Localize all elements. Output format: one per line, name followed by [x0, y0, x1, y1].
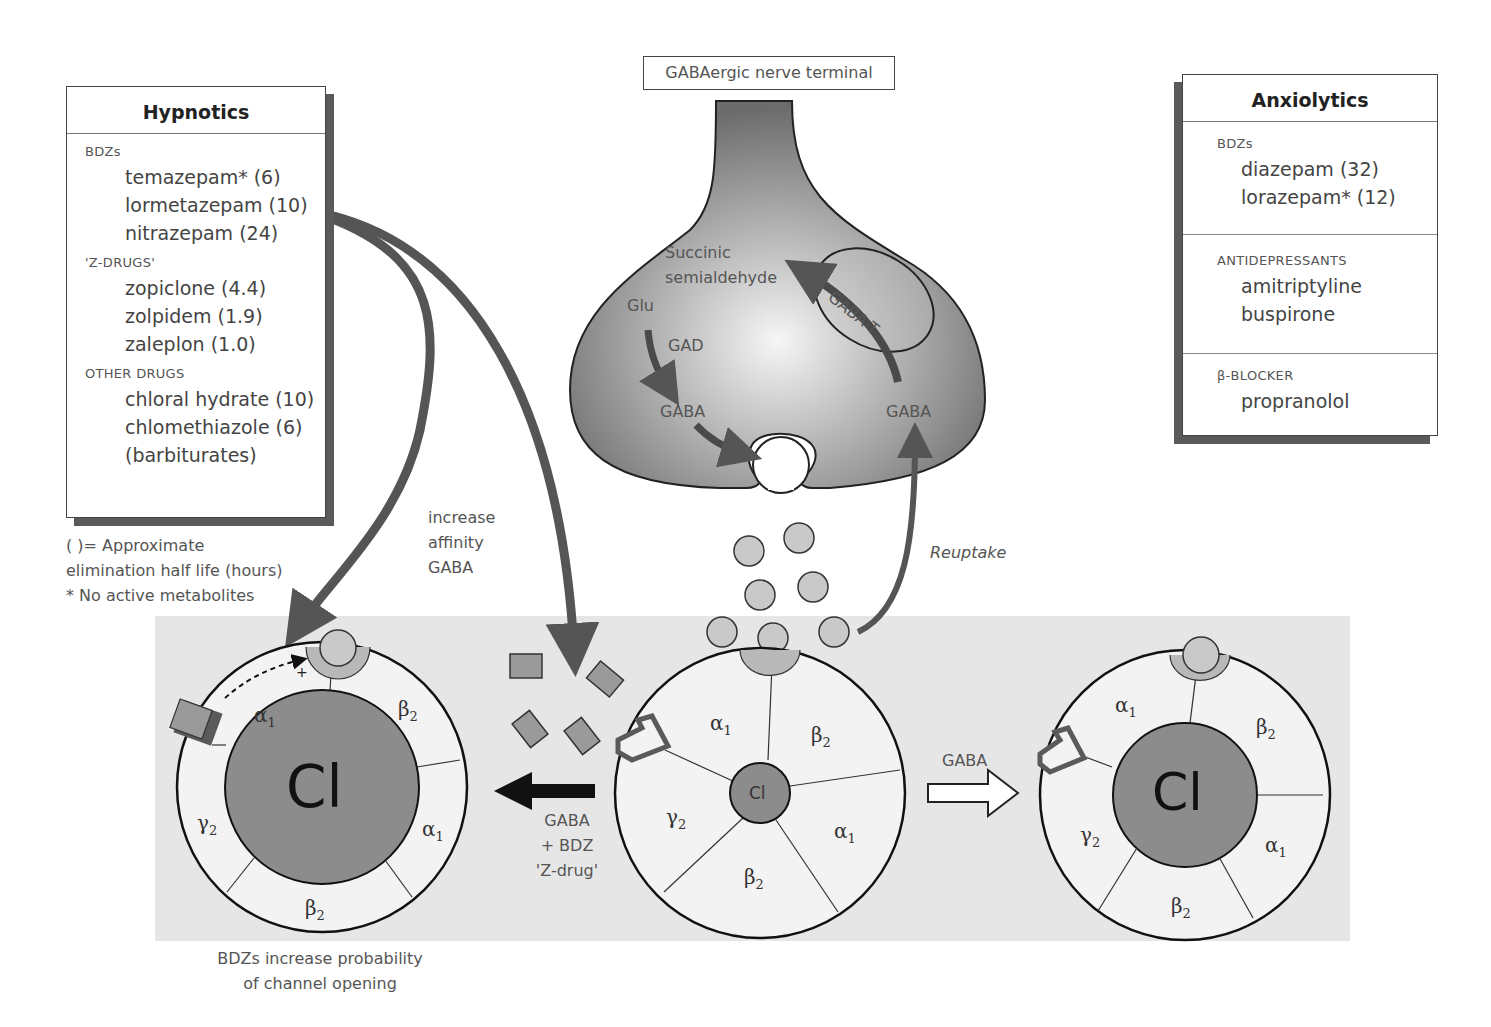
reuptake-label: Reuptake	[930, 540, 1006, 565]
anxiolytics-panel: Anxiolytics BDZs diazepam (32) lorazepam…	[1182, 74, 1438, 436]
drug-item: buspirone	[1183, 300, 1437, 328]
gaba-bdz-line: 'Z-drug'	[532, 858, 602, 883]
drug-arrow-right	[330, 215, 574, 650]
hypnotics-section-bdzs: BDZs	[67, 144, 325, 159]
affinity-line: affinity	[428, 530, 495, 555]
anxiolytics-section-beta-blocker: β-BLOCKER	[1183, 368, 1437, 383]
drug-item: (barbiturates)	[67, 441, 325, 469]
gaba-molecules	[707, 523, 849, 653]
affinity-line: increase	[428, 505, 495, 530]
drug-item: zaleplon (1.0)	[67, 330, 325, 358]
legend-line: elimination half life (hours)	[66, 558, 282, 583]
half-life-legend: ( )= Approximate elimination half life (…	[66, 533, 282, 608]
legend-line: ( )= Approximate	[66, 533, 282, 558]
pore-label-left: Cl	[286, 755, 343, 819]
pore-label-right: Cl	[1152, 762, 1203, 822]
drug-item: zolpidem (1.9)	[67, 302, 325, 330]
gaba-bdz-line: GABA	[532, 808, 602, 833]
plus-sign: +	[296, 660, 308, 685]
succinic-line: Succinic	[665, 240, 777, 265]
hypnotics-section-other: OTHER DRUGS	[67, 366, 325, 381]
drug-item: temazepam* (6)	[67, 163, 325, 191]
drug-item: chlomethiazole (6)	[67, 413, 325, 441]
drug-item: nitrazepam (24)	[67, 219, 325, 247]
drug-item: diazepam (32)	[1183, 155, 1437, 183]
hypnotics-panel: Hypnotics BDZs temazepam* (6) lormetazep…	[66, 86, 326, 518]
succinic-label: Succinic semialdehyde	[665, 240, 777, 290]
anxiolytics-section-bdzs: BDZs	[1183, 136, 1437, 151]
gaba-right-label: GABA	[886, 399, 931, 424]
legend-line: * No active metabolites	[66, 583, 282, 608]
terminal-title: GABAergic nerve terminal	[643, 56, 895, 90]
drug-item: zopiclone (4.4)	[67, 274, 325, 302]
drug-item: chloral hydrate (10)	[67, 385, 325, 413]
glu-label: Glu	[627, 293, 654, 318]
bdz-caption: BDZs increase probability of channel ope…	[200, 946, 440, 996]
caption-line: of channel opening	[200, 971, 440, 996]
caption-line: BDZs increase probability	[200, 946, 440, 971]
gaba-arrow-label: GABA	[942, 748, 987, 773]
hypnotics-title: Hypnotics	[67, 87, 325, 134]
pore-label-center: Cl	[749, 782, 766, 804]
succinic-line: semialdehyde	[665, 265, 777, 290]
affinity-line: GABA	[428, 555, 495, 580]
gad-label: GAD	[668, 333, 704, 358]
gaba-bdz-line: + BDZ	[532, 833, 602, 858]
anxiolytics-section-antidepressants: ANTIDEPRESSANTS	[1183, 253, 1437, 268]
drug-item: propranolol	[1183, 387, 1437, 415]
drug-item: amitriptyline	[1183, 272, 1437, 300]
drug-item: lorazepam* (12)	[1183, 183, 1437, 211]
hypnotics-section-z-drugs: 'Z-DRUGS'	[67, 255, 325, 270]
gaba-left-label: GABA	[660, 399, 705, 424]
increase-affinity-label: increase affinity GABA	[428, 505, 495, 580]
anxiolytics-title: Anxiolytics	[1183, 75, 1437, 122]
drug-item: lormetazepam (10)	[67, 191, 325, 219]
gaba-bdz-label: GABA + BDZ 'Z-drug'	[532, 808, 602, 883]
